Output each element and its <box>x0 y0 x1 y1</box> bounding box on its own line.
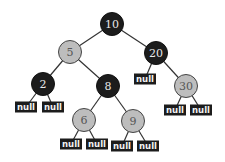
null-leaf: null <box>111 141 133 152</box>
node-label: 8 <box>105 80 112 93</box>
null-leaf: null <box>42 102 64 113</box>
null-leaf: null <box>134 74 156 85</box>
null-leaf: null <box>15 102 37 113</box>
tree-node-5: 5 <box>59 41 82 64</box>
null-label: null <box>136 74 154 84</box>
null-label: null <box>62 139 80 149</box>
tree-node-6: 6 <box>73 109 96 132</box>
node-label: 5 <box>67 46 74 59</box>
node-label: 9 <box>130 115 137 128</box>
node-label: 10 <box>105 18 119 31</box>
tree-node-10: 10 <box>101 13 124 36</box>
tree-node-8: 8 <box>97 75 120 98</box>
null-leaf: null <box>137 141 159 152</box>
tree-node-20: 20 <box>145 42 168 65</box>
tree-diagram: nullnullnullnullnullnullnullnullnull 105… <box>0 0 225 162</box>
null-label: null <box>17 102 35 112</box>
null-leaf: null <box>60 139 82 150</box>
tree-node-2: 2 <box>32 73 55 96</box>
null-leaf: null <box>190 105 212 116</box>
tree-node-30: 30 <box>175 75 198 98</box>
tree-node-9: 9 <box>122 110 145 133</box>
node-label: 20 <box>149 47 163 60</box>
null-leaf: null <box>164 105 186 116</box>
null-label: null <box>44 102 62 112</box>
null-label: null <box>166 105 184 115</box>
node-label: 6 <box>81 114 88 127</box>
null-label: null <box>139 141 157 151</box>
node-label: 30 <box>179 80 193 93</box>
null-leaf: null <box>86 139 108 150</box>
node-label: 2 <box>40 78 47 91</box>
null-label: null <box>88 139 106 149</box>
null-label: null <box>192 105 210 115</box>
null-label: null <box>113 141 131 151</box>
